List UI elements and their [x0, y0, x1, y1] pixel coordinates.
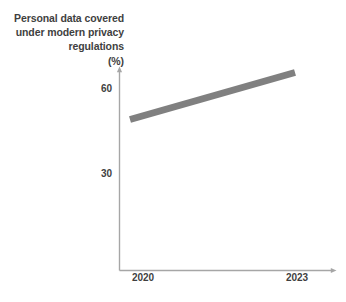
- x-tick-label-2023: 2023: [267, 272, 327, 283]
- chart-figure: Personal data covered under modern priva…: [0, 0, 346, 302]
- data-series-line: [130, 73, 295, 120]
- x-tick-label-2020: 2020: [113, 272, 173, 283]
- chart-plot-area: [0, 0, 346, 302]
- y-axis-arrow-icon: [117, 67, 122, 73]
- y-tick-label-60: 60: [68, 83, 112, 94]
- y-tick-label-30: 30: [68, 168, 112, 179]
- x-axis-arrow-icon: [331, 268, 337, 273]
